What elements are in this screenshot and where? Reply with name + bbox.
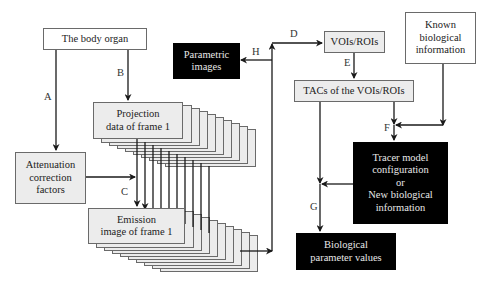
vois-rois-node: VOIs/ROIs xyxy=(324,31,385,53)
known-info-node: Known biological information xyxy=(405,12,476,64)
bio-params-label: Biological parameter values xyxy=(310,239,381,264)
edge-label-e: E xyxy=(344,57,350,68)
emission-label: Emission image of frame 1 xyxy=(100,214,172,239)
tacs-node: TACs of the VOIs/ROIs xyxy=(294,80,414,102)
edge-label-c: C xyxy=(121,186,128,197)
edge-label-f: F xyxy=(384,122,390,133)
edge-label-d: D xyxy=(290,28,298,39)
edge-label-h: H xyxy=(252,46,260,57)
parametric-images-label: Parametric images xyxy=(184,49,229,74)
edge-label-b: B xyxy=(117,67,124,78)
vois-rois-label: VOIs/ROIs xyxy=(331,36,379,49)
edge-label-g: G xyxy=(310,201,318,212)
known-info-label: Known biological information xyxy=(416,19,466,57)
body-organ-node: The body organ xyxy=(43,28,147,50)
attenuation-label: Attenuation correction factors xyxy=(26,159,76,197)
attenuation-node: Attenuation correction factors xyxy=(15,152,86,204)
tacs-label: TACs of the VOIs/ROIs xyxy=(303,85,404,98)
emission-frame-1-node: Emission image of frame 1 xyxy=(88,208,185,244)
tracer-model-node: Tracer model configuration or New biolog… xyxy=(353,142,448,224)
parametric-images-node: Parametric images xyxy=(173,43,240,79)
projection-label: Projection data of frame 1 xyxy=(106,108,170,133)
edge-label-a: A xyxy=(44,91,52,102)
projection-frame-1-node: Projection data of frame 1 xyxy=(93,102,183,139)
body-organ-label: The body organ xyxy=(62,33,128,46)
bio-params-node: Biological parameter values xyxy=(296,233,396,270)
tracer-model-label: Tracer model configuration or New biolog… xyxy=(368,152,432,215)
